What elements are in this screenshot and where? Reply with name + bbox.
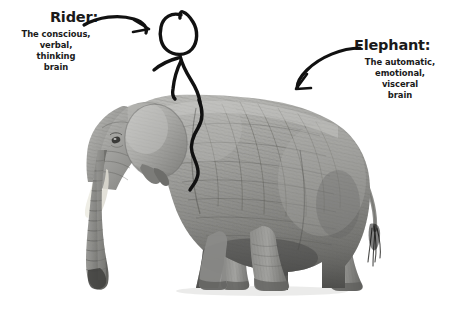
arrow-to-elephant	[296, 48, 360, 89]
arrow-to-rider	[84, 17, 149, 33]
annotation-arrows	[0, 0, 450, 313]
diagram-canvas: Rider: The conscious, verbal, thinking b…	[0, 0, 450, 313]
